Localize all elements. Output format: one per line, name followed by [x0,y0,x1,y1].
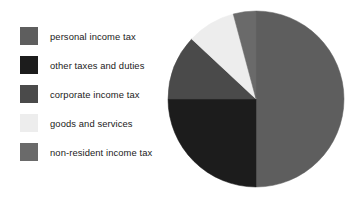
legend-item-goods-and-services[interactable]: goods and services [20,114,180,132]
legend-item-other-taxes-and-duties[interactable]: other taxes and duties [20,56,180,74]
legend-swatch-corporate-income-tax [20,85,38,103]
pie-slice-group [168,11,344,187]
legend-label-personal-income-tax: personal income tax [50,31,136,42]
legend-label-other-taxes-and-duties: other taxes and duties [50,60,144,71]
legend-label-goods-and-services: goods and services [50,118,133,129]
legend-swatch-non-resident-income-tax [20,143,38,161]
pie-slice-other-taxes-and-duties[interactable] [168,99,256,187]
legend-item-corporate-income-tax[interactable]: corporate income tax [20,85,180,103]
legend-swatch-other-taxes-and-duties [20,56,38,74]
pie-chart-svg [162,6,350,192]
pie-chart-figure: personal income tax other taxes and duti… [0,0,362,198]
legend-swatch-personal-income-tax [20,27,38,45]
legend-label-non-resident-income-tax: non-resident income tax [50,147,152,158]
legend-label-corporate-income-tax: corporate income tax [50,89,140,100]
chart-legend: personal income tax other taxes and duti… [20,27,180,172]
legend-swatch-goods-and-services [20,114,38,132]
legend-item-non-resident-income-tax[interactable]: non-resident income tax [20,143,180,161]
legend-item-personal-income-tax[interactable]: personal income tax [20,27,180,45]
pie-chart-plot-area [162,6,350,192]
pie-slice-personal-income-tax[interactable] [256,11,344,187]
